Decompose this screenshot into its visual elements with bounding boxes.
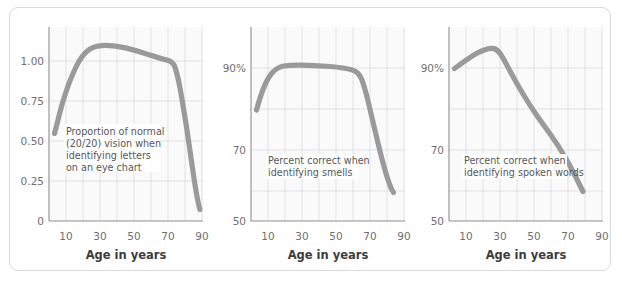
vision-xtick-label-4: 70 <box>161 230 174 242</box>
chart-panel-smell: Percent correct when identifying smells … <box>213 0 418 282</box>
smell-xtick-label-5: 90 <box>397 230 410 242</box>
vision-xtick-label-3: 50 <box>127 230 140 242</box>
smell-ytick-label-1: 90% <box>223 62 246 74</box>
vision-xtick-label-5: 90 <box>195 230 208 242</box>
smell-xtick-label-2: 30 <box>295 230 308 242</box>
vision-annotation-line-1: Proportion of normal <box>66 126 164 137</box>
smell-annotation-line-2: identifying smells <box>268 167 353 178</box>
hearing-plot-svg: Percent correct when identifying spoken … <box>414 0 622 282</box>
vision-ytick-label-5: 0 <box>37 215 44 227</box>
smell-annotation-line-1: Percent correct when <box>268 155 370 166</box>
vision-ytick-label-3: 0.50 <box>21 135 44 147</box>
vision-annotation-line-4: on an eye chart <box>66 162 142 173</box>
smell-xaxis-title: Age in years <box>288 248 369 262</box>
vision-annotation-line-2: (20/20) vision when <box>66 138 161 149</box>
vision-xtick-label-2: 30 <box>93 230 106 242</box>
vision-ytick-label-2: 0.75 <box>21 95 44 107</box>
vision-xaxis-title: Age in years <box>86 248 167 262</box>
hearing-annotation-line-2: identifying spoken words <box>464 167 584 178</box>
smell-ytick-label-2: 70 <box>233 144 246 156</box>
vision-ytick-label-1: 1.00 <box>21 55 44 67</box>
vision-ytick-label-4: 0.25 <box>21 175 44 187</box>
chart-panel-vision: Proportion of normal (20/20) vision when… <box>0 0 215 282</box>
hearing-xtick-label-3: 50 <box>527 230 540 242</box>
figure-panel-group: Proportion of normal (20/20) vision when… <box>0 0 622 282</box>
smell-plot-svg: Percent correct when identifying smells … <box>213 0 418 282</box>
smell-xtick-label-1: 10 <box>261 230 274 242</box>
hearing-ytick-label-2: 70 <box>431 144 444 156</box>
hearing-xtick-label-1: 10 <box>459 230 472 242</box>
hearing-xtick-label-2: 30 <box>493 230 506 242</box>
smell-ytick-label-3: 50 <box>233 215 246 227</box>
hearing-ytick-label-3: 50 <box>431 215 444 227</box>
vision-xtick-label-1: 10 <box>59 230 72 242</box>
vision-plot-svg: Proportion of normal (20/20) vision when… <box>0 0 215 282</box>
hearing-xtick-label-4: 70 <box>561 230 574 242</box>
hearing-ytick-label-1: 90% <box>421 62 444 74</box>
smell-xtick-label-4: 70 <box>363 230 376 242</box>
vision-annotation-line-3: identifying letters <box>66 150 151 161</box>
hearing-xtick-label-5: 90 <box>595 230 608 242</box>
hearing-annotation-line-1: Percent correct when <box>464 155 566 166</box>
hearing-xaxis-title: Age in years <box>486 248 567 262</box>
smell-xtick-label-3: 50 <box>329 230 342 242</box>
chart-panel-hearing: Percent correct when identifying spoken … <box>414 0 622 282</box>
smell-plot-background <box>251 27 405 221</box>
